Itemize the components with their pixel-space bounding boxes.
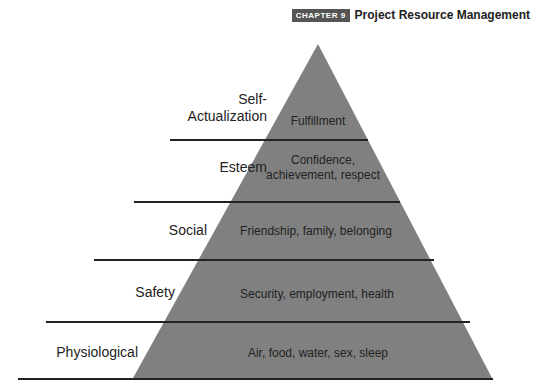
level-needs-physiological: Air, food, water, sex, sleep xyxy=(228,346,408,361)
level-label-social: Social xyxy=(150,222,207,239)
level-needs-safety: Security, employment, health xyxy=(222,287,412,302)
label-line: Actualization xyxy=(180,108,267,125)
level-label-self-actualization: Self- Actualization xyxy=(180,91,267,125)
level-label-esteem: Esteem xyxy=(180,159,267,176)
level-label-physiological: Physiological xyxy=(20,344,138,361)
pyramid-diagram xyxy=(0,0,534,389)
level-needs-social: Friendship, family, belonging xyxy=(226,224,406,239)
label-line: Self- xyxy=(180,91,267,108)
level-needs-esteem: Confidence, achievement, respect xyxy=(258,153,388,183)
level-needs-self-actualization: Fulfillment xyxy=(268,114,368,129)
needs-line: achievement, respect xyxy=(258,168,388,183)
level-label-safety: Safety xyxy=(100,284,175,301)
needs-line: Confidence, xyxy=(258,153,388,168)
